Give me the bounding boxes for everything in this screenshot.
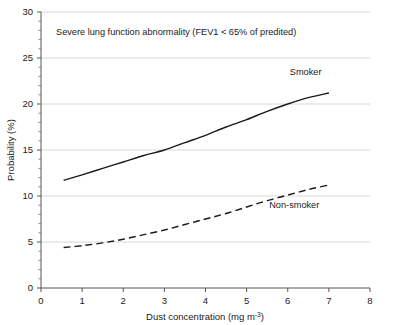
y-tick-label: 10 [22, 190, 33, 201]
chart-annotation: Severe lung function abnormality (FEV1 <… [56, 27, 296, 37]
tick-labels-group: 051015202530012345678 [22, 6, 372, 306]
chart-container: 051015202530012345678 SmokerNon-smoker S… [0, 0, 399, 325]
y-tick-label: 25 [22, 52, 33, 63]
y-tick-label: 20 [22, 98, 33, 109]
series-label-non-smoker: Non-smoker [269, 200, 319, 210]
probability-line-chart: 051015202530012345678 SmokerNon-smoker S… [0, 0, 399, 325]
x-tick-label: 2 [121, 295, 126, 306]
y-tick-label: 15 [22, 144, 33, 155]
y-tick-label: 30 [22, 6, 33, 17]
series-line-smoker [64, 93, 329, 180]
x-tick-label: 6 [285, 295, 290, 306]
tick-marks-group [37, 12, 370, 292]
series-line-non-smoker [64, 185, 329, 248]
x-tick-label: 3 [162, 295, 167, 306]
series-label-smoker: Smoker [290, 67, 322, 77]
data-series-group [64, 93, 329, 248]
x-tick-label: 5 [244, 295, 249, 306]
y-tick-label: 5 [28, 236, 33, 247]
y-axis-title: Probability (%) [5, 119, 16, 181]
x-tick-label: 7 [326, 295, 331, 306]
x-tick-label: 8 [367, 295, 372, 306]
x-axis-title: Dust concentration (mg m-3) [146, 311, 264, 323]
x-tick-label: 0 [38, 295, 43, 306]
x-tick-label: 4 [203, 295, 208, 306]
x-tick-label: 1 [79, 295, 84, 306]
gridlines-group [41, 12, 370, 242]
y-tick-label: 0 [28, 282, 33, 293]
